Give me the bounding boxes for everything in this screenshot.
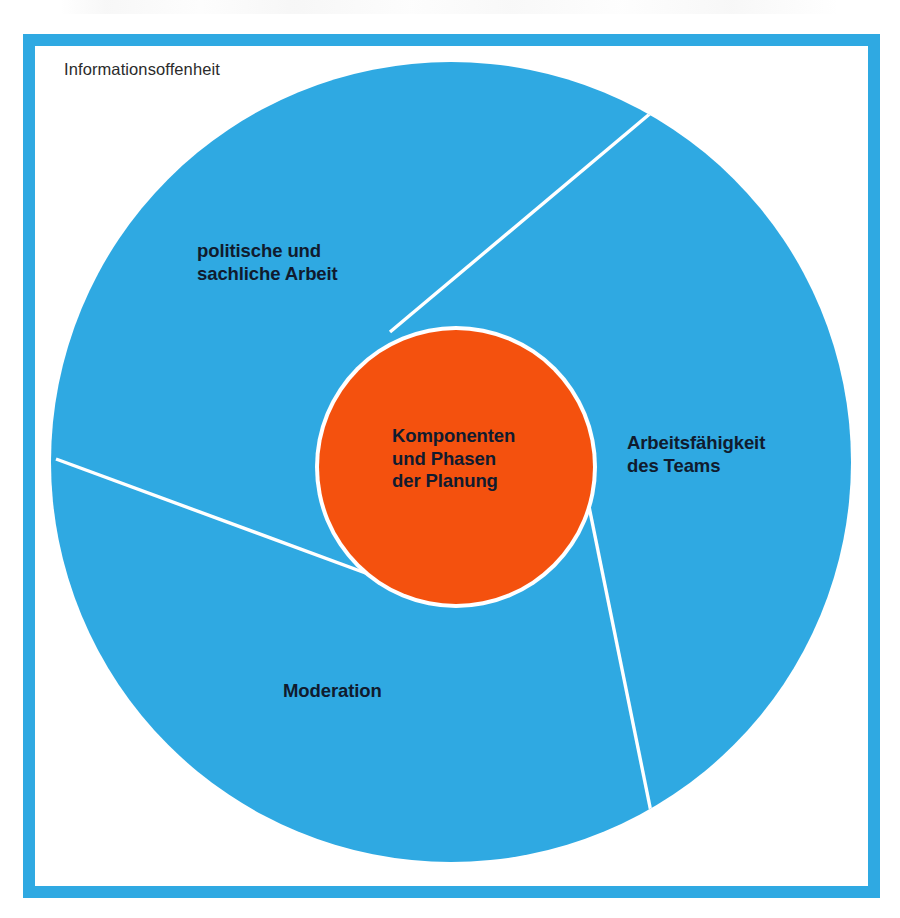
- segment-label-politische-und-sachliche-arbeit: politische und sachliche Arbeit: [197, 240, 338, 285]
- segment-label-moderation: Moderation: [283, 680, 382, 703]
- figure-title: Informationsoffenheit: [64, 60, 220, 79]
- segment-label-arbeitsfaehigkeit-des-teams: Arbeitsfähigkeit des Teams: [627, 432, 765, 477]
- inner-circle-label: Komponenten und Phasen der Planung: [392, 425, 515, 493]
- figure-page: Informationsoffenheit politische und sac…: [0, 0, 900, 918]
